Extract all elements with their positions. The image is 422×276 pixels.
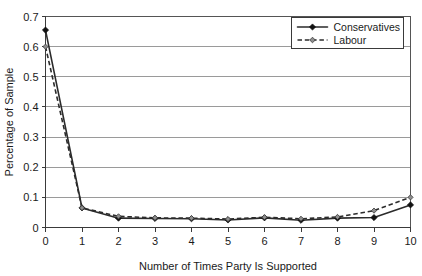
y-tick-label: 0.6 [23, 41, 38, 53]
x-tick-label: 2 [115, 235, 121, 247]
data-series-group [42, 27, 413, 223]
y-tick-label: 0.1 [23, 191, 38, 203]
data-point-marker-labour [371, 208, 376, 213]
x-tick-label: 4 [188, 235, 194, 247]
y-tick-label: 0.3 [23, 131, 38, 143]
y-tick-label: 0.5 [23, 71, 38, 83]
series-line-labour [46, 47, 411, 219]
data-point-marker-labour [79, 205, 84, 210]
legend-label-conservatives: Conservatives [334, 21, 401, 33]
x-tick-label: 8 [334, 235, 340, 247]
x-tick-label: 0 [42, 235, 48, 247]
x-tick-label: 5 [225, 235, 231, 247]
x-tick-label: 7 [298, 235, 304, 247]
y-tick-label: 0.4 [23, 101, 38, 113]
data-point-marker-conservatives [407, 202, 413, 208]
line-chart: 00.10.20.30.40.50.60.7 012345678910 Cons… [0, 0, 422, 276]
y-axis-ticks: 00.10.20.30.40.50.60.7 [23, 11, 45, 234]
y-tick-label: 0 [32, 222, 38, 234]
y-axis-title: Percentage of Sample [3, 68, 15, 177]
x-tick-label: 9 [371, 235, 377, 247]
data-point-marker-conservatives [371, 214, 377, 220]
x-tick-label: 10 [404, 235, 416, 247]
x-axis-title: Number of Times Party Is Supported [139, 260, 317, 272]
series-line-conservatives [46, 30, 411, 220]
x-tick-label: 3 [152, 235, 158, 247]
chart-legend: ConservativesLabour [292, 18, 404, 49]
chart-figure: 00.10.20.30.40.50.60.7 012345678910 Cons… [0, 0, 422, 276]
data-point-marker-labour [408, 195, 413, 200]
x-axis-ticks: 012345678910 [42, 228, 416, 247]
data-point-marker-conservatives [42, 27, 48, 33]
y-tick-label: 0.7 [23, 11, 38, 23]
x-tick-label: 6 [261, 235, 267, 247]
data-point-marker-labour [43, 44, 48, 49]
x-tick-label: 1 [79, 235, 85, 247]
y-tick-label: 0.2 [23, 161, 38, 173]
legend-label-labour: Labour [334, 34, 367, 46]
